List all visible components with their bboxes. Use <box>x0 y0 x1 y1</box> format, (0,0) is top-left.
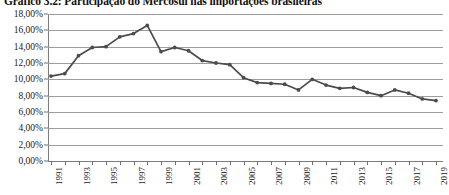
x-tick-mark <box>299 161 300 165</box>
data-point <box>77 54 81 58</box>
y-tick-label: 12,00% <box>14 58 43 68</box>
x-tick-label: 1993 <box>83 167 92 185</box>
x-tick-mark <box>106 161 107 165</box>
x-tick-label: 2007 <box>275 167 284 185</box>
x-tick-label: 2017 <box>413 167 422 185</box>
x-tick-mark <box>257 161 258 165</box>
data-point <box>200 59 204 63</box>
y-tick-label: 4,00% <box>18 123 43 133</box>
data-point <box>132 32 136 36</box>
x-tick-mark <box>422 161 423 165</box>
x-tick-mark <box>395 161 396 165</box>
data-point <box>297 88 301 92</box>
x-tick-mark <box>161 161 162 165</box>
x-tick-mark <box>244 161 245 165</box>
x-tick-mark <box>120 161 121 165</box>
x-tick-label: 1999 <box>165 167 174 185</box>
x-tick-mark <box>230 161 231 165</box>
y-axis-tick-labels: 0,00%2,00%4,00%6,00%8,00%10,00%12,00%14,… <box>0 14 46 161</box>
x-tick-mark <box>409 161 410 165</box>
x-tick-label: 1997 <box>138 167 147 185</box>
x-tick-mark <box>354 161 355 165</box>
data-point <box>255 81 259 85</box>
x-tick-label: 2019 <box>440 167 449 185</box>
x-axis-line <box>48 161 443 162</box>
x-tick-mark <box>312 161 313 165</box>
data-point <box>49 74 53 78</box>
data-point <box>118 35 122 39</box>
x-tick-mark <box>175 161 176 165</box>
x-tick-mark <box>271 161 272 165</box>
x-tick-label: 2001 <box>193 167 202 185</box>
x-tick-label: 2013 <box>358 167 367 185</box>
data-point <box>379 94 383 98</box>
x-tick-mark <box>134 161 135 165</box>
data-point <box>338 86 342 90</box>
x-tick-label: 2011 <box>330 167 339 185</box>
data-point <box>104 45 108 49</box>
x-tick-mark <box>65 161 66 165</box>
y-tick-label: 16,00% <box>14 25 43 35</box>
data-point <box>187 49 191 53</box>
y-tick-label: 10,00% <box>14 74 43 84</box>
x-tick-mark <box>367 161 368 165</box>
x-tick-mark <box>51 161 52 165</box>
data-series-line <box>48 14 443 161</box>
y-tick-label: 2,00% <box>18 140 43 150</box>
x-tick-mark <box>381 161 382 165</box>
y-tick-label: 8,00% <box>18 91 43 101</box>
x-tick-mark <box>340 161 341 165</box>
x-tick-mark <box>79 161 80 165</box>
data-point <box>63 72 67 76</box>
data-point <box>283 82 287 86</box>
x-tick-label: 2015 <box>385 167 394 185</box>
data-point <box>159 50 163 54</box>
data-point <box>214 61 218 65</box>
data-point <box>365 91 369 95</box>
x-tick-label: 2005 <box>248 167 257 185</box>
data-point <box>407 91 411 95</box>
x-tick-label: 2003 <box>220 167 229 185</box>
x-tick-mark <box>147 161 148 165</box>
y-tick-label: 0,00% <box>18 156 43 166</box>
data-point <box>434 99 438 103</box>
x-tick-mark <box>189 161 190 165</box>
data-point <box>269 82 273 86</box>
y-tick-label: 6,00% <box>18 107 43 117</box>
data-point <box>393 88 397 92</box>
data-point <box>324 83 328 87</box>
chart-title: Gráfico 3.2: Participação do Mercosul na… <box>4 0 445 7</box>
data-point <box>90 46 94 50</box>
x-tick-mark <box>326 161 327 165</box>
x-tick-mark <box>216 161 217 165</box>
data-point <box>173 46 177 50</box>
x-tick-label: 2009 <box>303 167 312 185</box>
x-tick-mark <box>202 161 203 165</box>
x-tick-label: 1995 <box>110 167 119 185</box>
data-point <box>420 97 424 101</box>
data-point <box>352 86 356 90</box>
x-tick-mark <box>92 161 93 165</box>
y-tick-label: 18,00% <box>14 9 43 19</box>
series-polyline <box>51 25 436 100</box>
x-tick-mark <box>436 161 437 165</box>
y-tick-label: 14,00% <box>14 42 43 52</box>
data-point <box>242 76 246 80</box>
data-point <box>228 63 232 67</box>
data-point <box>145 24 149 28</box>
x-tick-label: 1991 <box>55 167 64 185</box>
data-point <box>310 77 314 81</box>
x-tick-mark <box>285 161 286 165</box>
